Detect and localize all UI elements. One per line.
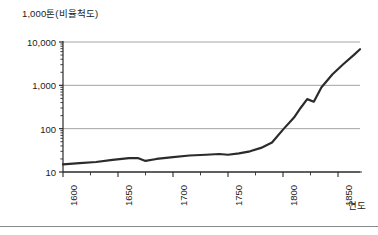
x-axis: [63, 172, 362, 177]
y-axis: [59, 41, 63, 172]
x-axis-label: 연도: [348, 198, 366, 212]
x-tick-label: 1700: [178, 185, 189, 206]
chart-plot-area: [0, 0, 378, 235]
y-tick-label: 1,000: [0, 80, 56, 91]
x-tick-label: 1750: [233, 185, 244, 206]
x-tick-label: 1800: [288, 185, 299, 206]
x-tick-label: 1600: [68, 185, 79, 206]
data-series-line: [63, 49, 360, 164]
x-tick-label: 1650: [123, 185, 134, 206]
gridlines: [63, 42, 360, 172]
chart-figure: 1,000톤(비율척도) 10,0001,00010010 1600165017…: [0, 0, 378, 235]
y-tick-label: 100: [0, 123, 56, 134]
bottom-divider: [0, 226, 378, 227]
y-tick-label: 10: [0, 167, 56, 178]
y-tick-label: 10,000: [0, 37, 56, 48]
chart-title: 1,000톤(비율척도): [22, 6, 98, 20]
